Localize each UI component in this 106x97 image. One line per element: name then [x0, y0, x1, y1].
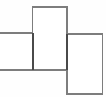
left-rectangle: [0, 33, 33, 70]
right-rectangle: [67, 34, 103, 94]
figure-canvas: [0, 0, 106, 97]
middle-rectangle: [33, 7, 68, 70]
three-rectangle-diagram: [0, 0, 106, 97]
